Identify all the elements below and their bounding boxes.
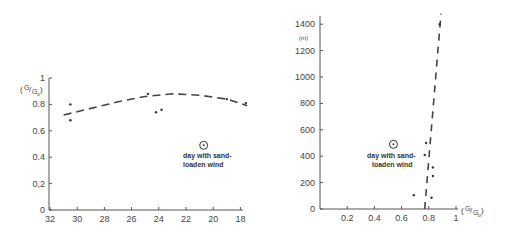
right-data-point: [413, 194, 415, 196]
left-x-tick-label: 30: [72, 214, 82, 224]
right-y-tick-label: 400: [300, 151, 315, 161]
left-y-tick-label: 0.8: [32, 99, 45, 109]
right-data-point: [430, 197, 432, 199]
left-x-tick-label: 28: [99, 214, 109, 224]
left-x-tick-label: 32: [45, 214, 55, 224]
left-x-tick-label: 26: [127, 214, 137, 224]
left-annotation-line2: loaden wind: [183, 161, 223, 168]
left-annotation-line1: day with sand-: [183, 152, 232, 160]
left-data-point: [69, 103, 71, 105]
left-y-tick-label: 0.6: [32, 126, 45, 136]
svg-text:): ): [481, 206, 484, 215]
svg-text:(: (: [461, 206, 464, 215]
right-chart: 0200400600800100012001400 0.20.40.60.81 …: [295, 14, 484, 223]
right-x-tick-label: 0.8: [423, 213, 436, 223]
left-data-point: [160, 108, 162, 110]
right-x-tick-label: 0.2: [341, 213, 354, 223]
right-y-tick-label: 1200: [295, 46, 315, 56]
figure: 00,20.40.60.81 3230282624222018 ( G / G …: [0, 0, 512, 236]
left-data-point: [155, 111, 157, 113]
left-y-tick-label: 0,2: [32, 179, 45, 189]
left-sand-wind-marker: [200, 141, 208, 149]
right-y-tick-label: 200: [300, 178, 315, 188]
left-data-point: [69, 119, 71, 121]
right-y-tick-label: 800: [300, 98, 315, 108]
right-y-tick-label: 0: [310, 204, 315, 214]
right-x-tick-label: 1: [453, 213, 458, 223]
left-x-tick-label: 20: [208, 214, 218, 224]
right-trend-line: [425, 14, 441, 209]
right-data-point: [432, 175, 434, 177]
left-y-axis-label: ( G / G o ): [20, 84, 43, 97]
right-sand-wind-marker: [389, 140, 397, 148]
left-data-point: [226, 98, 228, 100]
left-x-tick-label: 22: [181, 214, 191, 224]
left-x-tick-label: 18: [235, 214, 245, 224]
right-x-tick-label: 0.4: [368, 213, 381, 223]
left-y-tick-label: 0.4: [32, 152, 45, 162]
right-x-tick-label: 0.6: [395, 213, 408, 223]
left-y-tick-label: 1: [40, 73, 45, 83]
right-y-unit: (m): [299, 35, 308, 41]
right-data-point: [424, 154, 426, 156]
right-y-tick-label: 1000: [295, 72, 315, 82]
svg-text:): ): [40, 85, 43, 94]
right-y-tick-label: 600: [300, 125, 315, 135]
right-data-point: [438, 23, 440, 25]
left-data-point: [147, 93, 149, 95]
left-data-point: [245, 102, 247, 104]
left-x-tick-label: 24: [154, 214, 164, 224]
left-chart: 00,20.40.60.81 3230282624222018 ( G / G …: [20, 73, 247, 224]
right-data-point: [432, 166, 434, 168]
right-data-point: [425, 142, 427, 144]
right-annotation-line2: loaden wind: [372, 161, 412, 168]
svg-text:(: (: [20, 85, 23, 94]
right-x-axis-label: ( G / G o ): [461, 205, 484, 218]
right-annotation-line1: day with sand-: [367, 152, 416, 160]
right-y-tick-label: 1400: [295, 19, 315, 29]
